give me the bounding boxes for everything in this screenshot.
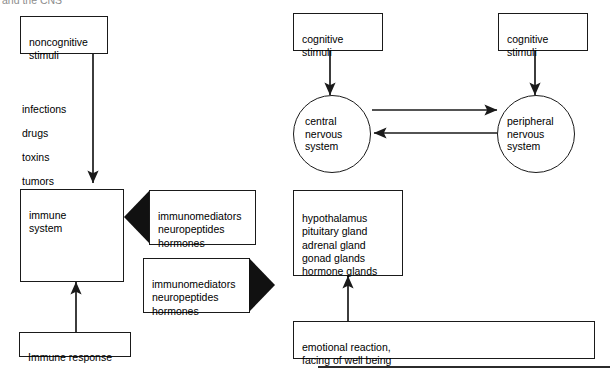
node-peripheral-nervous-system-label: peripheral nervous system — [507, 115, 554, 153]
node-endocrine-glands: hypothalamus pituitary gland adrenal gla… — [293, 190, 403, 276]
clipped-header-label: and the CNS — [2, 0, 62, 5]
node-immune-system-label: immune system — [29, 209, 66, 234]
node-cognitive-stimuli-left: cognitive stimuli — [293, 13, 383, 51]
diagram-canvas: and the CNS noncognitive stimuli infecti… — [0, 0, 610, 371]
node-central-nervous-system-label: central nervous system — [305, 115, 342, 153]
node-noncognitive-stimuli: noncognitive stimuli — [20, 16, 108, 54]
arrow-block-mediators-to-immune-body: immunomediators neuropeptides hormones — [149, 190, 256, 245]
node-emotional-reaction: emotional reaction, facing of well being — [293, 321, 595, 359]
node-immune-response: Immune response — [19, 332, 131, 357]
arrow-block-mediators-to-immune: immunomediators neuropeptides hormones — [124, 190, 256, 245]
node-immune-system: immune system — [20, 189, 124, 282]
stimuli-list: infections drugs toxins tumors — [22, 73, 112, 193]
node-endocrine-glands-label: hypothalamus pituitary gland adrenal gla… — [302, 212, 377, 277]
node-peripheral-nervous-system: peripheral nervous system — [497, 95, 575, 173]
arrowhead-left-icon — [124, 190, 150, 244]
arrow-block-mediators-to-cns-body: immunomediators neuropeptides hormones — [143, 258, 250, 313]
node-central-nervous-system: central nervous system — [293, 95, 371, 173]
clipped-header-text: and the CNS — [0, 0, 100, 5]
arrow-block-mediators-to-cns-label: immunomediators neuropeptides hormones — [152, 278, 235, 316]
stimuli-list-label: infections drugs toxins tumors — [22, 103, 66, 187]
arrow-block-mediators-to-cns: immunomediators neuropeptides hormones — [143, 258, 275, 313]
node-emotional-reaction-label: emotional reaction, facing of well being — [302, 341, 391, 366]
node-cognitive-stimuli-right: cognitive stimuli — [498, 13, 588, 51]
arrow-block-mediators-to-immune-label: immunomediators neuropeptides hormones — [158, 210, 241, 248]
node-immune-response-label: Immune response — [28, 351, 112, 363]
arrowhead-right-icon — [249, 258, 275, 312]
